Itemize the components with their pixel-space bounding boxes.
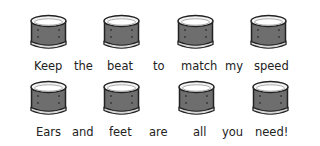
drum-icon (29, 80, 68, 117)
lyric-word: need! (255, 125, 288, 139)
drum-icon (251, 80, 290, 117)
lyric-word: speed (254, 59, 289, 73)
drum-icon (102, 14, 141, 51)
lyric-word: and (72, 125, 94, 139)
lyric-word: beat (107, 59, 133, 73)
lyric-word: Keep (34, 59, 62, 73)
lyric-word: you (222, 125, 243, 139)
drum-icon (102, 80, 141, 117)
drum-icon (177, 80, 216, 117)
drum-icon (29, 14, 68, 51)
lyric-word: the (74, 59, 93, 73)
lyric-word: my (225, 59, 243, 73)
lyric-word: Ears (36, 125, 61, 139)
drum-icon (176, 14, 215, 51)
lyric-word: to (153, 59, 165, 73)
lyric-word: all (193, 125, 206, 139)
lyric-word: match (181, 59, 217, 73)
drum-icon (249, 14, 288, 51)
lyric-word: are (149, 125, 168, 139)
lyric-word: feet (109, 125, 132, 139)
